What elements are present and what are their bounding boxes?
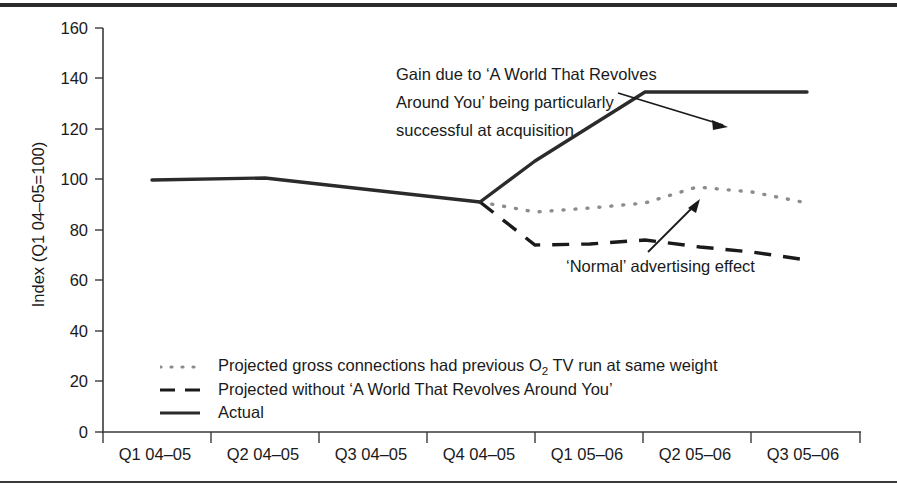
- legend-label-projected-without: Projected without ‘A World That Revolves…: [218, 380, 613, 399]
- legend: Projected gross connections had previous…: [160, 355, 718, 424]
- gain-annotation-arrow: [618, 93, 728, 130]
- series-projected-gross-connections: [480, 187, 807, 212]
- legend-swatch-dashed-icon: [160, 385, 200, 395]
- legend-item-actual: Actual: [160, 401, 718, 424]
- legend-item-projected-gross-connections: Projected gross connections had previous…: [160, 355, 718, 378]
- legend-label-text-post: TV run at same weight: [548, 356, 717, 374]
- series-actual: [152, 92, 807, 202]
- legend-item-projected-without: Projected without ‘A World That Revolves…: [160, 378, 718, 401]
- legend-swatch-dotted-icon: [160, 362, 200, 372]
- chart-figure: Index (Q1 04–05=100) 160 140 120 100 80 …: [0, 0, 897, 495]
- legend-label-actual: Actual: [218, 403, 264, 422]
- legend-label-projected-gross-connections: Projected gross connections had previous…: [218, 356, 718, 377]
- legend-swatch-solid-icon: [160, 408, 200, 418]
- legend-label-text-pre: Projected gross connections had previous…: [218, 356, 542, 374]
